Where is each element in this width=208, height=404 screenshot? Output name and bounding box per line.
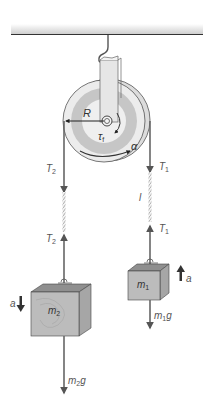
label-tension-right-bottom: T1 <box>159 224 169 235</box>
label-weight-m1: m1g <box>154 311 172 322</box>
label-accel-m1: a <box>186 274 192 284</box>
atwood-machine-diagram <box>0 0 208 404</box>
label-tension-left-bottom: T2 <box>46 234 56 245</box>
label-mass-m2: m2 <box>48 306 60 317</box>
rope-right <box>149 121 152 264</box>
label-friction-torque: τf <box>98 131 104 143</box>
pulley-bracket <box>100 56 121 122</box>
label-mass-m1: m1 <box>137 280 149 291</box>
label-weight-m2: m2g <box>68 376 86 387</box>
block-hook-right <box>144 259 158 263</box>
label-tension-right-top: T1 <box>159 162 169 173</box>
label-tension-left-top: T2 <box>46 164 56 175</box>
rope-left <box>63 121 66 283</box>
label-radius: R <box>83 108 91 119</box>
ceiling <box>11 24 203 35</box>
accel-arrow-m1 <box>177 265 186 281</box>
accel-arrow-m2 <box>17 296 26 312</box>
label-accel-m2: a <box>10 299 16 309</box>
block-m2 <box>31 284 91 336</box>
label-angular-acceleration: α <box>131 141 137 152</box>
block-hook-left <box>58 279 72 283</box>
label-rope-length: l <box>139 193 141 203</box>
